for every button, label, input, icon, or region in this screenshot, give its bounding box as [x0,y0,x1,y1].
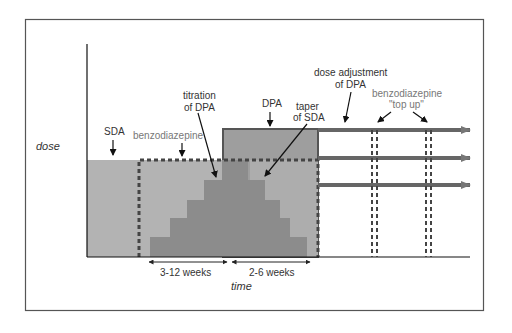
y-axis-label: dose [36,140,60,152]
label-sda: SDA [104,126,125,137]
label-benzo-topup-line1: benzodiazepine [372,88,442,99]
titration-duration-label: 3-12 weeks [160,267,211,278]
label-titration-line2: of DPA [184,102,215,113]
label-benzodiazepine: benzodiazepine [133,130,203,141]
x-axis-label: time [231,280,252,292]
label-dose-adjustment-line2: of DPA [335,79,366,90]
label-dpa: DPA [262,98,282,109]
treatment-transition-diagram: dose time SDA benzodiazepine titration o… [0,0,512,333]
taper-duration-label: 2-6 weeks [249,267,295,278]
label-benzo-topup-line2: "top up" [389,99,424,110]
label-taper-line2: of SDA [293,112,325,123]
label-titration-line1: titration [183,90,216,101]
label-dose-adjustment-line1: dose adjustment [314,67,388,78]
label-taper-line1: taper [296,101,319,112]
